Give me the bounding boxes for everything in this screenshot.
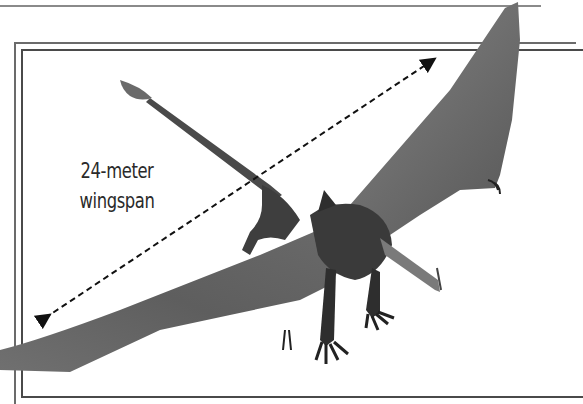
wingspan-caption: 24-meter wingspan bbox=[74, 156, 160, 216]
caption-line-2: wingspan bbox=[74, 186, 160, 216]
tail-vane bbox=[120, 80, 152, 100]
tail bbox=[146, 98, 282, 200]
beak bbox=[380, 238, 440, 292]
left-wing bbox=[0, 225, 350, 372]
caption-line-1: 24-meter bbox=[74, 156, 160, 186]
